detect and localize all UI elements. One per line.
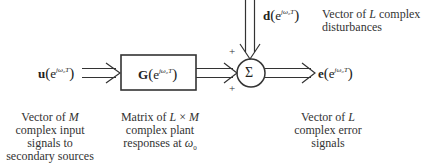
disturbance-description-line: disturbances (322, 21, 420, 34)
disturbance-signal-label: d(ejω₀T) (263, 6, 299, 22)
error-arrow (265, 63, 315, 83)
input-description-line: secondary sources (0, 150, 100, 163)
plus-sign-bottom: + (229, 83, 235, 94)
error-signal-label: e(ejω₀T) (318, 64, 353, 80)
plus-sign-top: + (229, 46, 235, 57)
disturbance-arrow (240, 0, 260, 59)
input-arrow (82, 63, 120, 83)
input-description: Vector of M complex input signals to sec… (0, 111, 100, 163)
plant-label: G(ejω₀T) (138, 65, 177, 81)
sigma-symbol: Σ (245, 66, 253, 80)
plant-description: Matrix of L × M complex plant responses … (110, 111, 210, 155)
error-description: Vector of L complex error signals (282, 111, 374, 150)
plant-to-sum-arrow (196, 63, 237, 83)
disturbance-description: Vector of L complex disturbances (322, 8, 420, 34)
input-signal-label: u(ejω₀T) (38, 64, 74, 80)
plant-description-line: responses at ω0 (110, 137, 210, 155)
error-description-line: signals (282, 137, 374, 150)
